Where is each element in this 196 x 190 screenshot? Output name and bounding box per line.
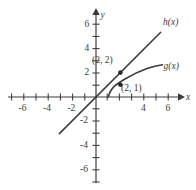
y-axis-arrowhead: [92, 8, 99, 15]
curve-h: [59, 32, 160, 133]
graph-figure: -6 -4 -2 4 6 6 4 2 -2 -4 -6 y x h(x) g(x…: [0, 0, 196, 190]
marked-point-2-2: [118, 70, 123, 75]
marked-point-2-1: [118, 83, 123, 88]
curve-g: [108, 65, 162, 97]
x-axis-arrowhead: [178, 93, 185, 100]
coordinate-plot: [0, 0, 196, 190]
